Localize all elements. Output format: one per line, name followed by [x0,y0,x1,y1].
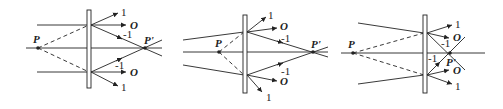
order-label: O [280,75,288,87]
panel-a: P P' 1 O -1 -1 O 1 [26,6,162,93]
image-label: P' [311,38,321,50]
grating [423,15,427,93]
order-1-lower-ray [427,75,452,84]
image-label: P' [144,34,154,46]
order-0-lower-ray [427,70,449,75]
dashed-ray-upper [353,33,424,53]
order-label: 1 [266,91,272,103]
incident-ray-lower [358,75,424,84]
order-label: 1 [121,6,127,18]
source-label: P [215,37,222,49]
order-label: 1 [268,9,274,21]
order-label: -1 [428,52,437,64]
order-label: 1 [455,80,461,92]
source-point [36,46,40,50]
source-point [351,51,355,55]
dashed-ray-lower [38,48,89,72]
source-label: P [33,33,40,45]
order-1-upper-ray [427,25,452,33]
incident-ray-upper [358,23,424,33]
dashed-ray-upper [38,25,89,48]
order-label: O [130,66,138,78]
order-label: -1 [441,37,450,49]
order-1-upper-ray [91,13,118,25]
order-label: -1 [281,32,290,44]
image-point [143,46,147,50]
order-label: O [453,31,461,43]
arrow-head [116,36,122,39]
grating [243,15,247,93]
order-label: 1 [121,81,127,93]
order-label: O [453,64,461,76]
source-point [217,50,221,54]
incident-ray-upper [183,32,244,40]
source-label: P [348,38,355,50]
diffraction-figure: P P' 1 O -1 -1 O 1 P P' 1 O [0,0,503,109]
order-1-lower-ray [91,72,118,86]
order-label: 1 [455,18,461,30]
image-point [311,50,315,54]
order-label: -1 [123,28,132,40]
dashed-ray-lower [353,53,424,75]
panel-c: P P' 1 O -1 -1 O 1 [341,15,485,93]
panel-b: P P' 1 O -1 -1 O 1 [183,9,328,103]
order-label: O [280,20,288,32]
image-point [448,51,452,55]
grating [87,10,91,88]
order-label: -1 [115,59,124,71]
